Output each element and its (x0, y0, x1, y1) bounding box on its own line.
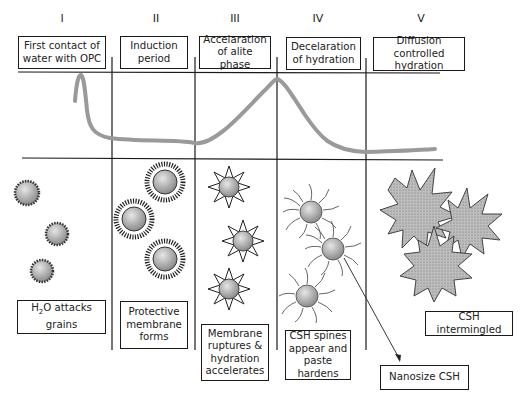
top-rule (18, 72, 440, 73)
caption-line: membrane (126, 319, 182, 332)
caption-line: accelerates (206, 365, 265, 378)
callout-arrow-line (344, 258, 400, 360)
stage-caption-1: H2O attacksgrains (17, 300, 106, 334)
stage-caption-3: Membraneruptures &hydrationaccelerates (201, 324, 269, 381)
baseline-rule (22, 158, 443, 160)
callout-nanosize-csh: Nanosize CSH (380, 365, 469, 390)
stage3-particles (208, 166, 264, 310)
caption-line: ruptures & (206, 340, 265, 353)
caption-line: Membrane (206, 328, 265, 341)
caption-line: grains (31, 319, 92, 332)
stage1-particles (15, 181, 68, 282)
caption-line: Protective (126, 306, 182, 319)
stage5-clusters (380, 168, 502, 302)
caption-line: forms (126, 331, 182, 344)
stage-caption-5: CSH intermingled (425, 311, 513, 336)
stage2-particles (116, 164, 183, 277)
caption-line: CSH intermingled (428, 311, 510, 336)
stage-caption-4: CSH spinesappear andpaste hardens (285, 330, 351, 380)
heat-evolution-curve (75, 75, 435, 152)
caption-line: hydration (206, 353, 265, 366)
stage4-particles (279, 184, 361, 323)
stage-caption-2: Protectivemembraneforms (120, 301, 188, 349)
callout-arrowhead (395, 354, 401, 362)
caption-line: CSH spines (288, 330, 348, 343)
caption-line: paste hardens (288, 355, 348, 380)
caption-line: appear and (288, 343, 348, 356)
callout-label: Nanosize CSH (389, 371, 460, 384)
caption-line: H2O attacks (31, 302, 92, 319)
